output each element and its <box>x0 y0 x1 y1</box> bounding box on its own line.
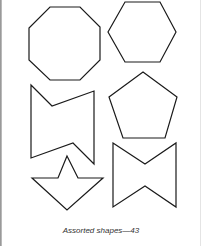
concave-bowtie-right-shape <box>113 143 176 207</box>
figure-caption: Assorted shapes—43 <box>0 226 202 235</box>
octagon-shape <box>29 7 100 80</box>
concave-bowtie-left-shape <box>31 85 94 164</box>
arrowhead-star-shape <box>32 156 103 210</box>
shapes-figure <box>0 0 202 246</box>
hexagon-shape <box>108 2 176 62</box>
pentagon-shape <box>109 72 177 138</box>
